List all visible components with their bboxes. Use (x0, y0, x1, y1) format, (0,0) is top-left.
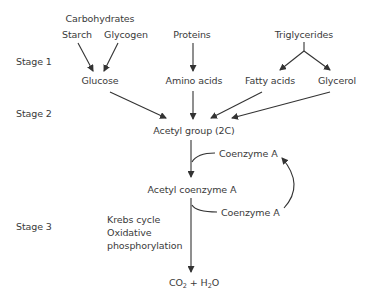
coenzyme-a-join-curve (192, 153, 215, 162)
coenzyme-a-release-curve (192, 205, 217, 212)
arrow-starch-glucose (78, 43, 93, 71)
arrow-triglycerides-fattyacids (280, 51, 304, 70)
arrow-triglycerides-glycerol (304, 51, 330, 70)
arrow-glucose-acetyl (110, 92, 166, 118)
arrow-coenzyme-recycle (282, 158, 294, 208)
arrow-glycerol-acetyl (232, 92, 330, 118)
arrow-fattyacids-acetyl (211, 92, 262, 118)
arrow-layer (0, 0, 365, 298)
arrow-glycogen-glucose (104, 43, 118, 71)
